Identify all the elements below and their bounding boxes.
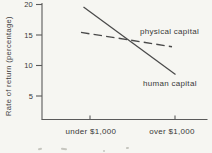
x-category-label-over-1000: over $1,000: [149, 127, 195, 137]
y-tick-label: 10: [15, 61, 33, 70]
y-tick-label: 5: [15, 92, 33, 101]
series-label-human-capital: human capital: [143, 79, 197, 89]
x-category-label-under-1000: under $1,000: [66, 127, 117, 137]
y-tick-label: 15: [15, 31, 33, 40]
scan-artifact: [103, 150, 105, 152]
series-line-human-capital: [84, 7, 176, 74]
scan-artifact: [61, 148, 67, 150]
chart-figure: Rate of return (percentage) 2015105 unde…: [0, 0, 212, 153]
series-label-physical-capital: physical capital: [140, 27, 199, 37]
scan-artifact: [126, 147, 129, 149]
y-tick-label: 20: [15, 0, 33, 9]
